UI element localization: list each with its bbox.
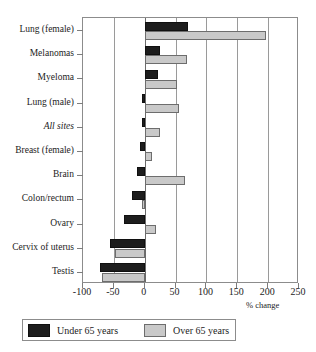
legend-label-under-65: Under 65 years [57,325,118,336]
bar-group [83,187,297,211]
under-65-swatch [28,324,50,337]
y-axis-label: Breast (female) [15,145,74,155]
bar-under-65 [145,22,188,31]
legend-item-over-65: Over 65 years [144,324,229,337]
bar-group [83,115,297,139]
y-axis-label: Colon/rectum [22,193,74,203]
y-tick [77,54,83,55]
bar-over-65 [145,80,177,89]
bar-over-65 [145,104,179,113]
y-axis-label: Myeloma [38,72,74,82]
bar-over-65 [145,128,160,137]
y-axis-label: Testis [52,266,74,276]
bar-group [83,18,297,42]
bar-group [83,139,297,163]
y-axis-label: Cervix of uterus [12,242,74,252]
x-axis-title: % change [246,300,279,310]
y-axis-label: Lung (female) [19,24,74,34]
bar-group [83,236,297,260]
x-tick-label: 250 [278,286,316,297]
bar-group [83,42,297,66]
y-tick [77,127,83,128]
bar-under-65 [145,46,160,55]
bar-group [83,91,297,115]
bar-under-65 [145,70,159,79]
bar-over-65 [142,200,145,209]
bar-over-65 [145,176,186,185]
y-tick [77,272,83,273]
y-axis-label: Melanomas [30,48,74,58]
bar-over-65 [145,55,187,64]
y-axis-label: Lung (male) [27,97,74,107]
y-axis-label: Brain [53,169,74,179]
over-65-swatch [144,324,166,337]
bar-group [83,211,297,235]
legend-label-over-65: Over 65 years [173,325,229,336]
y-tick [77,103,83,104]
bar-under-65 [110,239,145,248]
bar-over-65 [145,31,266,40]
bar-chart-figure: Lung (female)MelanomasMyelomaLung (male)… [0,0,316,352]
bar-under-65 [142,94,145,103]
y-tick [77,30,83,31]
bar-under-65 [132,191,144,200]
y-tick [77,248,83,249]
plot-area [82,17,298,283]
legend-item-under-65: Under 65 years [28,324,118,337]
y-axis-label: All sites [44,121,74,131]
bar-over-65 [145,152,152,161]
bar-over-65 [145,225,156,234]
chart-legend: Under 65 years Over 65 years [22,319,236,341]
bar-under-65 [124,215,144,224]
y-tick [77,78,83,79]
y-tick [77,175,83,176]
bar-under-65 [140,142,145,151]
bar-under-65 [100,263,145,272]
y-axis-label: Ovary [50,218,74,228]
bar-over-65 [115,249,145,258]
bar-group [83,260,297,284]
bar-under-65 [137,167,145,176]
y-tick [77,199,83,200]
bar-group [83,66,297,90]
bar-under-65 [142,118,145,127]
bar-group [83,163,297,187]
y-tick [77,151,83,152]
bar-over-65 [102,273,145,282]
y-tick [77,224,83,225]
